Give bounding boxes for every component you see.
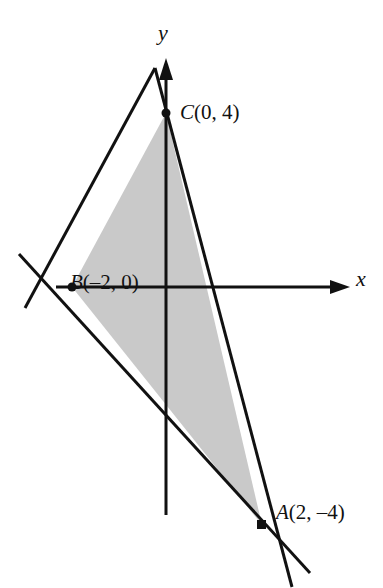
vertex-label-a: A(2, –4) (276, 502, 345, 523)
y-axis-arrowhead (159, 58, 173, 80)
vertex-marker-a (257, 520, 266, 529)
vertex-marker-c (162, 109, 171, 118)
coordinate-figure: C(0, 4) B(–2, 0) A(2, –4) x y (0, 0, 383, 588)
vertex-label-b-coords: (–2, 0) (83, 270, 139, 294)
vertex-label-a-coords: (2, –4) (289, 500, 345, 524)
vertex-label-c-coords: (0, 4) (194, 100, 240, 124)
x-axis-label: x (356, 268, 366, 290)
x-axis-arrowhead (330, 280, 350, 294)
vertex-label-b-name: B (70, 270, 83, 294)
y-axis-label: y (158, 22, 168, 44)
vertex-label-b: B(–2, 0) (70, 272, 139, 293)
vertex-label-c: C(0, 4) (180, 102, 240, 123)
vertex-label-a-name: A (276, 500, 289, 524)
vertex-label-c-name: C (180, 100, 194, 124)
